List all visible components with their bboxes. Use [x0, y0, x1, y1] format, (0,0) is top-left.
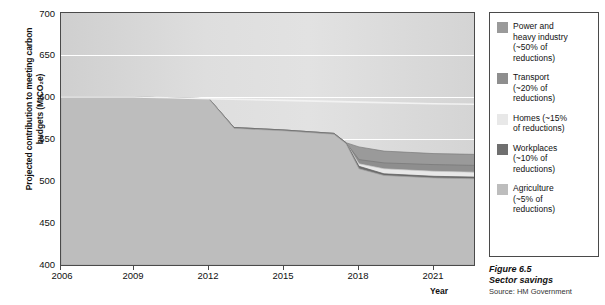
legend-item-transport: Transport (~20% of reductions): [497, 72, 592, 104]
x-tick-2009: 2009: [122, 270, 143, 281]
area-agriculture: [61, 97, 475, 265]
legend-label: Workplaces (~10% of reductions): [513, 143, 557, 175]
x-tick-2021: 2021: [422, 270, 443, 281]
figure-container: Projected contribution to meeting carbon…: [0, 0, 605, 305]
x-tick-2012: 2012: [197, 270, 218, 281]
legend-item-homes: Homes (~15% of reductions): [497, 113, 592, 134]
y-tick-500: 500: [39, 175, 55, 186]
y-tick-700: 700: [39, 8, 55, 19]
y-tick-450: 450: [39, 217, 55, 228]
x-tick-2015: 2015: [272, 270, 293, 281]
legend-swatch-icon: [497, 144, 508, 155]
x-tick-2006: 2006: [51, 270, 72, 281]
chart-panel: Projected contribution to meeting carbon…: [0, 0, 486, 305]
legend-swatch-icon: [497, 114, 508, 125]
figure-number: Figure 6.5: [489, 264, 601, 275]
legend-swatch-icon: [497, 73, 508, 84]
x-tick-2018: 2018: [347, 270, 368, 281]
y-tick-550: 550: [39, 133, 55, 144]
legend-label: Power and heavy industry (~50% of reduct…: [513, 21, 568, 63]
area-bottom-filler: [61, 265, 475, 266]
legend-label: Homes (~15% of reductions): [513, 113, 567, 134]
legend-item-agriculture: Agriculture (~5% of reductions): [497, 183, 592, 215]
y-tick-650: 650: [39, 49, 55, 60]
legend-label: Agriculture (~5% of reductions): [513, 183, 555, 215]
legend-swatch-icon: [497, 22, 508, 33]
figure-title: Sector savings: [489, 275, 601, 286]
legend-label: Transport (~20% of reductions): [513, 72, 555, 104]
plot-area: [60, 12, 475, 266]
stacked-area-plot: [61, 13, 475, 266]
legend-swatch-icon: [497, 184, 508, 195]
figure-caption: Figure 6.5 Sector savings Source: HM Gov…: [489, 264, 601, 297]
chart-legend: Power and heavy industry (~50% of reduct…: [489, 12, 599, 257]
legend-item-workplaces: Workplaces (~10% of reductions): [497, 143, 592, 175]
legend-item-power-heavy-industry: Power and heavy industry (~50% of reduct…: [497, 21, 592, 63]
y-tick-600: 600: [39, 91, 55, 102]
figure-source: Source: HM Government: [489, 287, 601, 297]
y-tick-400: 400: [39, 259, 55, 270]
x-axis-title: Year: [430, 286, 448, 296]
